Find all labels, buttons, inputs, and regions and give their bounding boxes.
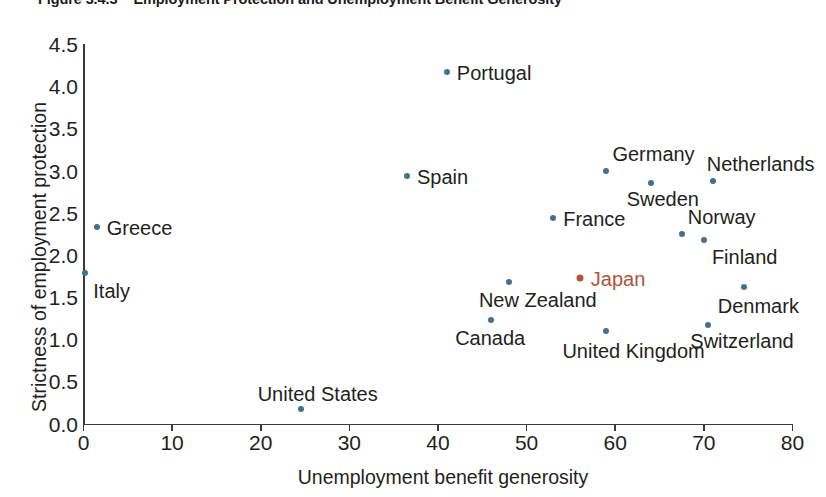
scatter-point-label: France bbox=[563, 209, 625, 229]
x-axis-tick-label: 20 bbox=[231, 432, 291, 453]
scatter-point-label: New Zealand bbox=[479, 290, 597, 310]
scatter-point-label: Canada bbox=[455, 328, 525, 348]
scatter-point-label: Denmark bbox=[718, 296, 799, 316]
x-axis-tick bbox=[437, 424, 439, 431]
x-axis-tick bbox=[792, 424, 794, 431]
y-axis-title: Strictness of employment protection bbox=[28, 102, 51, 412]
scatter-point-label: Switzerland bbox=[690, 331, 793, 351]
scatter-point-label: Japan bbox=[591, 269, 646, 289]
scatter-point[interactable] bbox=[679, 231, 685, 237]
y-axis-tick-label: 4.5 bbox=[2, 34, 78, 55]
x-axis-tick bbox=[83, 424, 85, 431]
scatter-point[interactable] bbox=[576, 275, 583, 282]
x-axis-tick-label: 80 bbox=[763, 432, 823, 453]
scatter-point-label: Italy bbox=[93, 281, 130, 301]
x-axis-tick-label: 60 bbox=[585, 432, 645, 453]
scatter-point[interactable] bbox=[603, 168, 609, 174]
x-axis-tick bbox=[614, 424, 616, 431]
y-axis-line bbox=[83, 44, 85, 425]
scatter-point-label: United Kingdom bbox=[562, 341, 704, 361]
x-axis-tick bbox=[526, 424, 528, 431]
x-axis-title: Unemployment benefit generosity bbox=[0, 466, 826, 489]
scatter-point-label: Greece bbox=[107, 218, 173, 238]
x-axis-tick-label: 70 bbox=[674, 432, 734, 453]
scatter-point[interactable] bbox=[550, 215, 556, 221]
scatter-point[interactable] bbox=[404, 173, 410, 179]
x-axis-tick-label: 40 bbox=[408, 432, 468, 453]
scatter-point[interactable] bbox=[298, 406, 304, 412]
scatter-point[interactable] bbox=[94, 224, 100, 230]
scatter-point-label: Norway bbox=[688, 207, 756, 227]
scatter-point[interactable] bbox=[444, 69, 450, 75]
scatter-point[interactable] bbox=[506, 279, 512, 285]
x-axis-tick bbox=[703, 424, 705, 431]
x-axis-tick-label: 30 bbox=[319, 432, 379, 453]
x-axis-tick-label: 10 bbox=[142, 432, 202, 453]
scatter-point[interactable] bbox=[82, 270, 88, 276]
scatter-point-label: Finland bbox=[712, 247, 778, 267]
x-axis-tick bbox=[171, 424, 173, 431]
scatter-point[interactable] bbox=[488, 317, 494, 323]
scatter-plot: 010203040506070800.00.51.01.52.02.53.03.… bbox=[0, 0, 826, 497]
scatter-point[interactable] bbox=[701, 237, 707, 243]
scatter-point-label: United States bbox=[258, 384, 378, 404]
scatter-point[interactable] bbox=[603, 328, 609, 334]
x-axis-tick bbox=[349, 424, 351, 431]
scatter-point[interactable] bbox=[648, 180, 654, 186]
y-axis-tick-label: 0.0 bbox=[2, 414, 78, 435]
scatter-point[interactable] bbox=[705, 322, 711, 328]
scatter-point-label: Spain bbox=[417, 167, 468, 187]
x-axis-tick-label: 50 bbox=[497, 432, 557, 453]
x-axis-tick bbox=[260, 424, 262, 431]
scatter-point-label: Germany bbox=[612, 144, 694, 164]
y-axis-tick-label: 4.0 bbox=[2, 76, 78, 97]
scatter-point[interactable] bbox=[710, 178, 716, 184]
scatter-point-label: Netherlands bbox=[707, 154, 815, 174]
scatter-point[interactable] bbox=[741, 284, 747, 290]
scatter-point-label: Portugal bbox=[457, 63, 532, 83]
